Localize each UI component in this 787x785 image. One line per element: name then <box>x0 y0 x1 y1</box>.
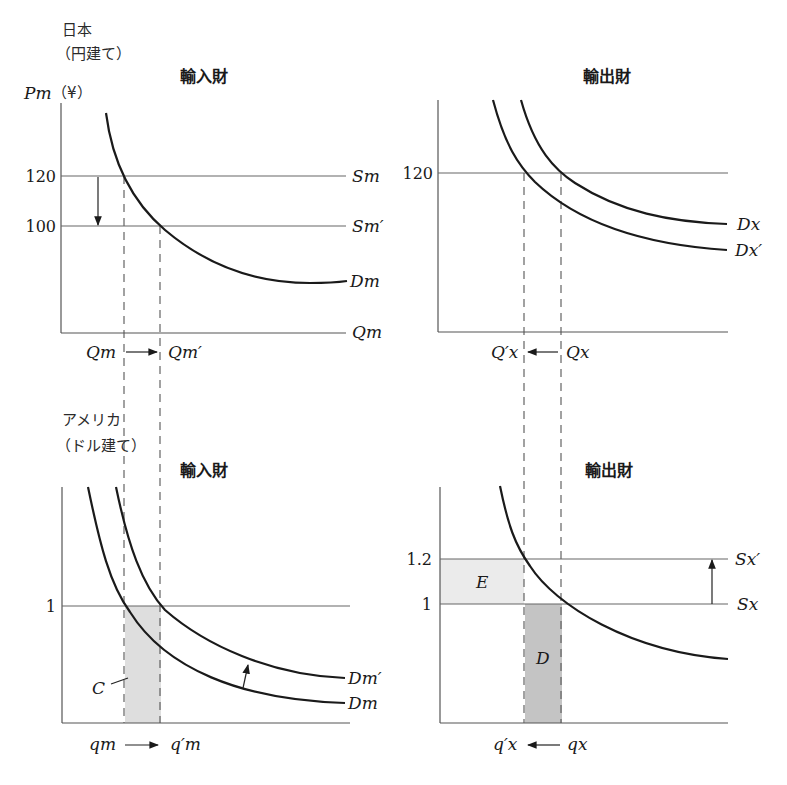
tick-120: 120 <box>402 164 433 183</box>
label-dm: Dm <box>349 271 380 291</box>
label-dx: Dx <box>736 214 761 234</box>
japan-country-label: 日本 <box>62 21 92 39</box>
tick-100: 100 <box>25 217 56 236</box>
label-qm-axis: Qm <box>352 322 382 342</box>
label-qx-prime: q′x <box>493 734 518 754</box>
panel-japan-imports: 輸入財 120 100 Sm Sm′ Dm Qm Qm Qm′ <box>25 67 383 362</box>
label-dm-prime: Dm′ <box>347 668 382 688</box>
label-sx-prime: Sx′ <box>735 549 760 569</box>
panel-title: 輸出財 <box>583 67 631 86</box>
label-sm-prime: Sm′ <box>352 216 384 236</box>
label-d: D <box>535 648 550 668</box>
label-c: C <box>92 678 105 698</box>
label-qm-prime: q′m <box>170 734 201 754</box>
label-qm: qm <box>89 734 116 754</box>
usa-country-label: アメリカ <box>62 411 121 429</box>
tick-1: 1 <box>46 597 56 616</box>
panel-usa-exports: 輸出財 1.2 1 Sx′ Sx E D q′x qx <box>407 461 761 754</box>
label-qx: qx <box>567 734 588 754</box>
panel-usa-imports: 輸入財 1 Dm′ Dm C qm q′m <box>46 461 382 754</box>
arrow-shift-icon <box>243 665 248 688</box>
tick-1-2: 1.2 <box>407 550 432 569</box>
label-sx: Sx <box>737 594 759 614</box>
panel-title: 輸入財 <box>180 67 228 86</box>
dx-curve <box>521 100 727 224</box>
label-dm: Dm <box>347 693 378 713</box>
label-qm: Qm <box>86 342 116 362</box>
panel-title: 輸入財 <box>180 461 228 480</box>
label-e: E <box>475 572 489 592</box>
japan-currency-label: （円建て） <box>56 45 131 63</box>
tick-1: 1 <box>422 595 432 614</box>
y-axis-symbol: Pm <box>23 83 52 103</box>
label-dx-prime: Dx′ <box>734 240 762 260</box>
trade-diagram: 日本 （円建て） Pm （¥） 輸入財 120 100 Sm Sm′ Dm Qm… <box>0 0 787 785</box>
label-qx: Qx <box>566 342 590 362</box>
label-qx-prime: Q′x <box>491 342 519 362</box>
area-c <box>125 606 161 723</box>
panel-japan-exports: 輸出財 120 Dx Dx′ Q′x Qx <box>402 67 762 362</box>
dm-curve <box>106 113 347 283</box>
y-axis-unit: （¥） <box>52 84 92 102</box>
panel-title: 輸出財 <box>585 461 633 480</box>
label-qm-prime: Qm′ <box>168 342 202 362</box>
dashed-guides <box>124 173 561 723</box>
tick-120: 120 <box>25 167 56 186</box>
label-sm: Sm <box>352 166 380 186</box>
usa-currency-label: （ドル建て） <box>56 437 146 455</box>
